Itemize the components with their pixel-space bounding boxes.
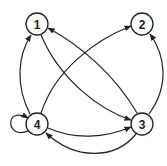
edge-4-to-2 — [41, 26, 131, 113]
edge-4-to-1 — [20, 35, 31, 114]
node-label: 2 — [139, 18, 146, 32]
node-4: 4 — [26, 113, 48, 135]
edge-3-to-2 — [149, 34, 163, 114]
edge-1-to-3 — [41, 35, 131, 120]
graph-diagram: 1234 — [0, 0, 167, 166]
node-1: 1 — [26, 13, 48, 35]
node-label: 4 — [34, 118, 41, 132]
node-label: 1 — [34, 18, 41, 32]
node-2: 2 — [131, 13, 153, 35]
edge-4-to-3 — [48, 127, 131, 136]
node-label: 3 — [139, 118, 146, 132]
node-3: 3 — [131, 113, 153, 135]
graph-canvas: 1234 — [0, 0, 167, 166]
